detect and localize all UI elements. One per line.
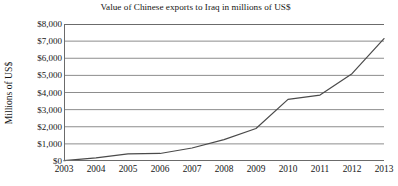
y-axis-tick-label: $1,000 (14, 139, 62, 149)
y-axis-tick-labels: $0$1,000$2,000$3,000$4,000$5,000$6,000$7… (12, 24, 62, 161)
y-axis-tick-label: $5,000 (14, 70, 62, 80)
y-axis-tick-label: $6,000 (14, 53, 62, 63)
y-axis-tick-label: $7,000 (14, 36, 62, 46)
y-axis-tick-label: $3,000 (14, 105, 62, 115)
y-axis-tick-label: $8,000 (14, 19, 62, 29)
y-axis-tick-label: $4,000 (14, 88, 62, 98)
data-series-line (64, 24, 384, 161)
series-path (64, 39, 384, 161)
chart-title: Value of Chinese exports to Iraq in mill… (0, 2, 391, 12)
y-axis-tick-label: $2,000 (14, 122, 62, 132)
plot-area (64, 24, 384, 161)
x-axis-tick-label: 2013 (364, 164, 398, 174)
x-axis-tick-labels: 2003200420052006200720082009201020112012… (64, 164, 384, 182)
